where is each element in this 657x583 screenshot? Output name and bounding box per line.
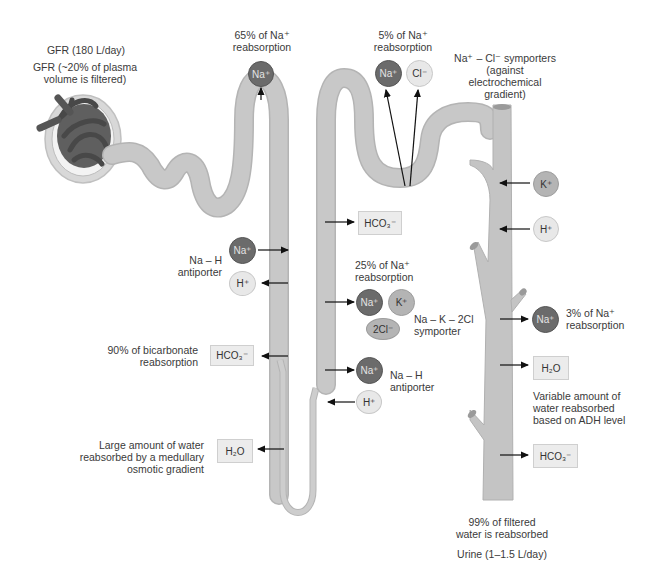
cd-bicarbonate-box: HCO₃⁻ bbox=[533, 444, 578, 468]
dct-symporter-label-4: gradient) bbox=[450, 88, 560, 101]
adh-label-1: Variable amount of bbox=[533, 390, 620, 403]
gfr-fraction-label-1: GFR (~20% of plasma bbox=[30, 61, 140, 74]
cd-h-ion: H⁺ bbox=[533, 216, 559, 242]
urine-output-label: Urine (1–1.5 L/day) bbox=[442, 548, 562, 561]
water-label-1: Large amount of water bbox=[60, 439, 204, 452]
symporter-na-ion: Na⁺ bbox=[356, 289, 383, 316]
symporter-label-2: symporter bbox=[414, 325, 461, 338]
symporter-k-ion: K⁺ bbox=[388, 289, 415, 316]
pct-na-ion: Na⁺ bbox=[248, 61, 274, 87]
loop-of-henle bbox=[280, 360, 316, 513]
dct-cl-ion: Cl⁻ bbox=[406, 60, 433, 87]
pct-bicarbonate-label-2: reabsorption bbox=[80, 356, 198, 369]
pct-antiporter-na-ion: Na⁺ bbox=[229, 237, 256, 264]
pct-bicarbonate-box: HCO₃⁻ bbox=[210, 345, 254, 366]
cd-k-ion: K⁺ bbox=[533, 171, 559, 197]
filtered-water-label-2: water is reabsorbed bbox=[442, 528, 562, 541]
pct-na-pct-label-1: 65% of Na⁺ bbox=[220, 29, 304, 42]
asc-antiporter-label-2: antiporter bbox=[390, 381, 434, 394]
asc-na-pct-label-2: reabsorption bbox=[355, 271, 413, 284]
adh-label-2: water reabsorbed bbox=[533, 402, 615, 415]
cd-na-pct-label-2: reabsorption bbox=[566, 319, 624, 332]
dct-na-ion: Na⁺ bbox=[375, 60, 402, 87]
pct-antiporter-h-ion: H⁺ bbox=[229, 271, 256, 296]
descending-water-box: H₂O bbox=[217, 439, 253, 463]
filtered-water-label-1: 99% of filtered bbox=[442, 516, 562, 529]
dct-symporter-label-1: Na⁺ – Cl⁻ symporters bbox=[450, 52, 560, 65]
collecting-duct bbox=[466, 104, 528, 500]
pct-na-pct-label-2: reabsorption bbox=[220, 41, 304, 54]
adh-label-3: based on ADH level bbox=[533, 414, 625, 427]
gfr-rate-label: GFR (180 L/day) bbox=[38, 44, 134, 57]
asc-bicarbonate-box: HCO₃⁻ bbox=[358, 211, 402, 235]
dct-na-pct-label-1: 5% of Na⁺ bbox=[366, 29, 440, 42]
glomerulus bbox=[40, 95, 121, 183]
cd-water-box: H₂O bbox=[533, 356, 569, 380]
water-label-2: reabsorbed by a medullary bbox=[60, 451, 204, 464]
dct-na-pct-label-2: reabsorption bbox=[366, 41, 440, 54]
asc-antiporter-label-1: Na – H bbox=[390, 369, 423, 382]
cd-na-ion: Na⁺ bbox=[532, 306, 559, 333]
cd-na-pct-label-1: 3% of Na⁺ bbox=[566, 307, 615, 320]
dct-symporter-label-2: (against bbox=[450, 64, 560, 77]
dct-symporter-label-3: electrochemical bbox=[450, 76, 560, 89]
asc-na-pct-label-1: 25% of Na⁺ bbox=[355, 259, 410, 272]
water-label-3: osmotic gradient bbox=[60, 463, 204, 476]
pct-antiporter-label-1: Na – H bbox=[160, 254, 222, 267]
asc-antiporter-na-ion: Na⁺ bbox=[356, 357, 383, 384]
pct-bicarbonate-label-1: 90% of bicarbonate bbox=[80, 344, 198, 357]
symporter-label-1: Na – K – 2Cl bbox=[414, 313, 474, 326]
gfr-fraction-label-2: volume is filtered) bbox=[30, 73, 140, 86]
pct-antiporter-label-2: antiporter bbox=[160, 266, 222, 279]
ascending-limb bbox=[326, 78, 490, 385]
asc-antiporter-h-ion: H⁺ bbox=[356, 390, 382, 414]
symporter-cl-ion: 2Cl⁻ bbox=[366, 318, 400, 340]
